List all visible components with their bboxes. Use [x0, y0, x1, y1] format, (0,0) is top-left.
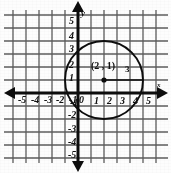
y-tick-neg-5: -5 [68, 150, 76, 160]
x-tick-1: 1 [94, 96, 99, 106]
x-tick-neg-1: -1 [69, 95, 77, 105]
x-tick-5: 5 [146, 96, 151, 106]
x-tick-3: 3 [120, 96, 125, 106]
y-tick-4: 4 [69, 31, 74, 41]
x-tick-4: 4 [133, 96, 138, 106]
y-axis-down-arrowhead [72, 161, 84, 172]
x-tick-neg-4: -4 [31, 95, 39, 105]
center-point-marker [101, 77, 106, 82]
coordinate-plane-svg [0, 0, 171, 173]
y-tick-1: 1 [69, 73, 74, 83]
x-axis-label: x [157, 82, 161, 89]
graph-figure: y x 0 1 2 3 4 5 -1 -2 -3 -4 -5 -5 -4 -3 … [0, 0, 171, 173]
axis-lines [10, 7, 162, 166]
x-axis-left-arrowhead [4, 87, 15, 99]
y-tick-3: 3 [69, 44, 74, 54]
x-tick-neg-3: -3 [44, 95, 52, 105]
x-tick-2: 2 [107, 96, 112, 106]
x-tick-neg-5: -5 [18, 95, 26, 105]
y-tick-2: 2 [69, 60, 74, 70]
y-tick-neg-2: -2 [68, 110, 76, 120]
x-tick-neg-2: -2 [56, 95, 64, 105]
y-tick-neg-4: -4 [68, 137, 76, 147]
origin-tick-label: 0 [79, 95, 84, 105]
radius-length-label: 3 [125, 65, 130, 74]
y-tick-neg-3: -3 [68, 124, 76, 134]
center-point-label: (2 , 1) [91, 61, 115, 71]
y-axis-label: y [81, 9, 85, 18]
y-tick-5: 5 [69, 16, 74, 26]
